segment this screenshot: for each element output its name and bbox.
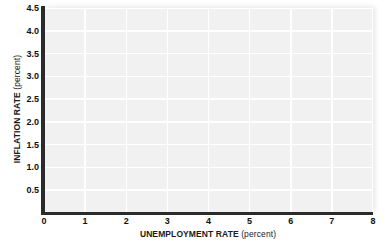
x-tick-label: 7 [320, 216, 344, 226]
x-tick-label: 4 [197, 216, 221, 226]
x-axis-title-unit: (percent) [241, 229, 276, 239]
x-tick-label: 6 [279, 216, 303, 226]
x-axis-title: UNEMPLOYMENT RATE (percent) [43, 229, 373, 239]
x-axis-title-main: UNEMPLOYMENT RATE [140, 229, 239, 239]
x-tick-label: 1 [73, 216, 97, 226]
x-tick-label-group: 012345678 [0, 0, 386, 241]
x-tick-label: 0 [32, 216, 56, 226]
x-tick-label: 2 [114, 216, 138, 226]
chart-container: INFLATION RATE (percent) 0.51.01.52.02.5… [0, 0, 386, 241]
x-tick-label: 8 [361, 216, 385, 226]
x-tick-label: 3 [155, 216, 179, 226]
x-tick-label: 5 [238, 216, 262, 226]
